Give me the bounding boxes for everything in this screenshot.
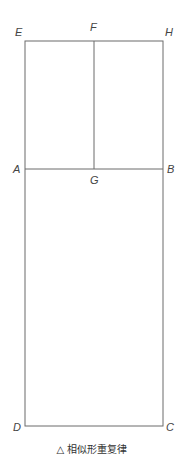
label-G: G xyxy=(90,174,99,186)
figure-caption: △ 相似形重复律 xyxy=(0,441,184,456)
label-B: B xyxy=(167,163,174,175)
label-C: C xyxy=(166,421,174,433)
label-E: E xyxy=(15,26,23,38)
label-F: F xyxy=(90,21,98,33)
rectangle-diagram: E F H A G B D C xyxy=(0,0,184,458)
label-D: D xyxy=(13,421,21,433)
label-H: H xyxy=(165,26,173,38)
label-A: A xyxy=(12,163,20,175)
